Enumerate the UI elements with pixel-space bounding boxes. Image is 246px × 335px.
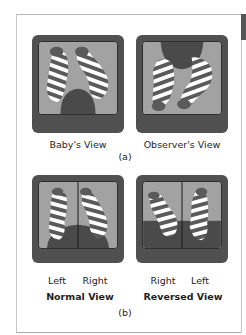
observer-legs-icon	[143, 42, 221, 114]
normal-right-label: Right	[77, 275, 113, 286]
reversed-right-label: Right	[145, 275, 181, 286]
normal-left-label: Left	[42, 275, 72, 286]
panel-divider	[241, 40, 242, 333]
caption-a: (a)	[110, 151, 140, 162]
normal-split-view-illustration	[38, 181, 118, 249]
observers-view-frame	[136, 35, 228, 133]
reversed-view-frame	[136, 175, 228, 263]
observer-legs-view-illustration	[142, 41, 222, 115]
sidebar-tab	[241, 14, 246, 40]
babys-view-label: Baby's View	[32, 139, 124, 150]
baby-legs-icon	[39, 42, 117, 114]
caption-b: (b)	[110, 307, 140, 318]
reversed-view-title: Reversed View	[133, 291, 233, 302]
observers-view-label: Observer's View	[132, 139, 232, 150]
reversed-split-view-illustration	[142, 181, 222, 249]
normal-view-frame	[32, 175, 124, 263]
normal-view-title: Normal View	[30, 291, 130, 302]
reversed-left-label: Left	[185, 275, 215, 286]
babys-view-frame	[32, 35, 124, 133]
baby-legs-view-illustration	[38, 41, 118, 115]
normal-split-legs-icon	[39, 182, 117, 248]
reversed-split-legs-icon	[143, 182, 221, 248]
